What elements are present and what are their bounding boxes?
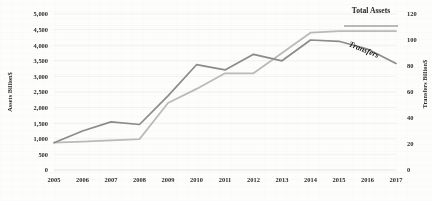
x-axis-tick-labels: 2005200620072008200920102011201220132014… — [48, 176, 404, 183]
svg-text:2006: 2006 — [76, 176, 90, 183]
svg-text:0: 0 — [407, 166, 410, 173]
series-label-total-assets: Total Assets — [352, 6, 390, 15]
svg-text:2013: 2013 — [276, 176, 289, 183]
svg-text:2,000: 2,000 — [34, 104, 48, 111]
series-lines-group — [54, 31, 396, 143]
left-axis-title: Assets Billion$ — [6, 72, 13, 111]
svg-text:2007: 2007 — [105, 176, 119, 183]
svg-text:2010: 2010 — [190, 176, 203, 183]
right-axis-title: Transfers Billion$ — [421, 60, 428, 108]
svg-text:2012: 2012 — [247, 176, 260, 183]
svg-text:2,500: 2,500 — [34, 88, 48, 95]
left-axis-tick-labels: 05001,0001,5002,0002,5003,0003,5004,0004… — [34, 10, 48, 173]
svg-text:80: 80 — [407, 62, 413, 69]
svg-text:2014: 2014 — [304, 176, 318, 183]
series-line-total-assets — [54, 31, 396, 142]
svg-text:40: 40 — [407, 114, 413, 121]
svg-text:3,500: 3,500 — [34, 57, 48, 64]
series-line-transfers — [54, 40, 396, 143]
chart-container: 05001,0001,5002,0002,5003,0003,5004,0004… — [0, 0, 432, 201]
gridlines-group — [54, 14, 396, 170]
svg-text:0: 0 — [45, 166, 48, 173]
svg-text:2016: 2016 — [361, 176, 375, 183]
svg-text:500: 500 — [38, 151, 48, 158]
svg-text:100: 100 — [407, 36, 417, 43]
svg-text:2011: 2011 — [219, 176, 231, 183]
svg-text:4,500: 4,500 — [34, 26, 48, 33]
svg-text:2009: 2009 — [162, 176, 175, 183]
svg-text:1,500: 1,500 — [34, 120, 48, 127]
svg-text:2017: 2017 — [390, 176, 404, 183]
svg-text:1,000: 1,000 — [34, 135, 48, 142]
svg-text:3,000: 3,000 — [34, 73, 48, 80]
svg-text:120: 120 — [407, 10, 417, 17]
svg-text:4,000: 4,000 — [34, 42, 48, 49]
dual-axis-line-chart: 05001,0001,5002,0002,5003,0003,5004,0004… — [0, 0, 432, 201]
svg-text:5,000: 5,000 — [34, 10, 48, 17]
svg-text:2008: 2008 — [133, 176, 146, 183]
svg-text:2015: 2015 — [333, 176, 346, 183]
svg-text:20: 20 — [407, 140, 413, 147]
right-axis-tick-labels: 020406080100120 — [407, 10, 417, 173]
svg-text:60: 60 — [407, 88, 413, 95]
svg-text:2005: 2005 — [48, 176, 61, 183]
series-label-transfers: Transfers — [348, 40, 381, 60]
